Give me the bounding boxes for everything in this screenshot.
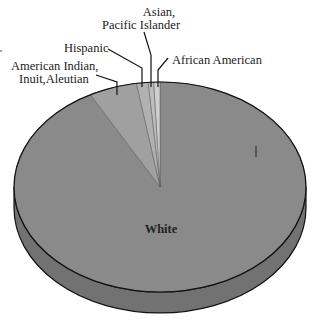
label-hispanic: Hispanic	[64, 41, 109, 55]
label-american-indian-line1: American Indian,	[11, 59, 98, 73]
label-asian-line2: Pacific Islander	[102, 18, 181, 32]
label-african-american: African American	[172, 53, 263, 67]
stray-dot	[0, 50, 2, 52]
label-american-indian-line2: Inuit,Aleutian	[19, 72, 90, 86]
pie-slices	[14, 82, 306, 292]
leader-asian	[144, 32, 151, 87]
pie-chart: Asian, Pacific Islander Hispanic African…	[0, 0, 317, 328]
label-white: White	[145, 222, 178, 236]
label-asian-line1: Asian,	[143, 5, 175, 19]
